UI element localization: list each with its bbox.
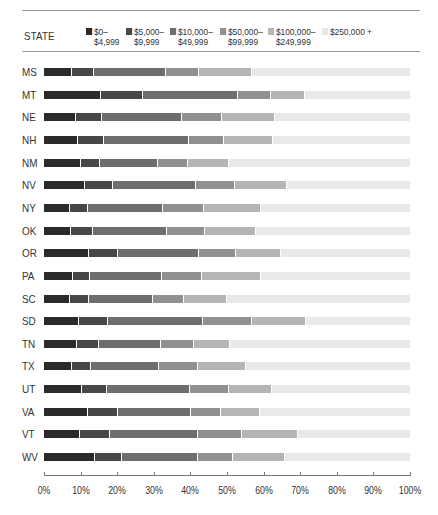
bar-row: NH <box>0 136 438 145</box>
bar-segment <box>79 317 108 325</box>
bar-segment <box>190 385 229 393</box>
bar-segment <box>238 91 271 99</box>
bar-segment <box>73 272 90 280</box>
bar-segment <box>113 181 196 189</box>
state-label: NV <box>22 179 36 191</box>
bar-row: SD <box>0 317 438 326</box>
bar-segment <box>199 249 236 257</box>
x-tick <box>373 472 374 476</box>
bar-segment <box>44 430 80 438</box>
bar-segment <box>85 181 113 189</box>
state-label: PA <box>22 270 34 282</box>
bar-segment <box>44 340 77 348</box>
bar-segment <box>272 385 410 393</box>
bar-segment <box>70 295 89 303</box>
bar-segment <box>80 430 110 438</box>
x-tick <box>264 472 265 476</box>
legend-swatch <box>86 28 92 35</box>
bar-segment <box>184 295 227 303</box>
bar-segment <box>281 249 410 257</box>
stacked-bar <box>44 113 410 121</box>
x-tick-label: 50% <box>218 485 236 496</box>
bar-row: OR <box>0 249 438 258</box>
stacked-bar <box>44 272 410 280</box>
bar-segment <box>242 430 298 438</box>
x-tick-label: 0% <box>38 485 51 496</box>
bar-segment <box>189 136 224 144</box>
bar-segment <box>191 408 221 416</box>
state-label: TN <box>22 338 35 350</box>
bar-segment <box>82 385 107 393</box>
bar-segment <box>44 68 72 76</box>
bar-segment <box>298 430 410 438</box>
state-label: NH <box>22 134 36 146</box>
x-tick-label: 70% <box>291 485 309 496</box>
bar-segment <box>236 249 281 257</box>
legend-label: $250,000 + <box>330 27 372 37</box>
bar-segment <box>71 227 93 235</box>
legend-swatch <box>268 28 274 35</box>
bar-segment <box>90 272 162 280</box>
stacked-bar <box>44 317 410 325</box>
state-label: NM <box>22 157 37 169</box>
bar-segment <box>229 385 272 393</box>
bar-row: NM <box>0 159 438 168</box>
bar-segment <box>93 227 167 235</box>
state-label: SD <box>22 315 36 327</box>
legend-item: $250,000 + <box>322 27 372 37</box>
bar-segment <box>44 204 70 212</box>
bar-segment <box>261 272 410 280</box>
legend-swatch <box>220 28 226 35</box>
chart-header: STATE $0–$4,999$5,000–$9,999$10,000–$49,… <box>22 24 420 50</box>
bar-row: TX <box>0 362 438 371</box>
bar-segment <box>44 362 72 370</box>
bar-segment <box>102 113 182 121</box>
bar-row: NY <box>0 204 438 213</box>
state-label: UT <box>22 383 35 395</box>
bar-segment <box>305 91 410 99</box>
legend-label: $0–$4,999 <box>94 27 120 47</box>
x-tick-label: 40% <box>182 485 200 496</box>
legend-swatch <box>170 28 176 35</box>
bar-segment <box>198 362 246 370</box>
bar-segment <box>44 91 101 99</box>
bar-segment <box>104 136 189 144</box>
bar-segment <box>256 227 410 235</box>
bar-segment <box>118 408 191 416</box>
bar-segment <box>233 453 285 461</box>
stacked-bar <box>44 340 410 348</box>
bar-segment <box>91 362 159 370</box>
bar-segment <box>153 295 184 303</box>
bar-segment <box>88 408 118 416</box>
bar-segment <box>107 385 190 393</box>
bar-segment <box>275 113 410 121</box>
bar-segment <box>273 136 410 144</box>
bar-segment <box>198 430 242 438</box>
state-label: SC <box>22 293 36 305</box>
bar-segment <box>224 136 273 144</box>
bar-segment <box>202 272 261 280</box>
x-tick <box>154 472 155 476</box>
stacked-bar <box>44 181 410 189</box>
bar-segment <box>118 249 199 257</box>
bar-segment <box>227 295 410 303</box>
legend-item: $5,000–$9,999 <box>126 27 164 47</box>
stacked-bar <box>44 430 410 438</box>
bar-segment <box>161 340 194 348</box>
stacked-bar <box>44 159 410 167</box>
x-tick <box>300 472 301 476</box>
x-tick-label: 20% <box>108 485 126 496</box>
bar-segment <box>95 453 122 461</box>
x-tick-label: 100% <box>399 485 422 496</box>
state-label: OK <box>22 225 36 237</box>
bar-row: PA <box>0 272 438 281</box>
bar-segment <box>44 385 82 393</box>
bar-segment <box>159 362 198 370</box>
bar-segment <box>222 113 275 121</box>
bar-row: WV <box>0 453 438 462</box>
bar-segment <box>203 317 252 325</box>
bar-segment <box>44 272 73 280</box>
state-label: MT <box>22 89 36 101</box>
bar-segment <box>196 181 235 189</box>
bar-segment <box>94 68 166 76</box>
